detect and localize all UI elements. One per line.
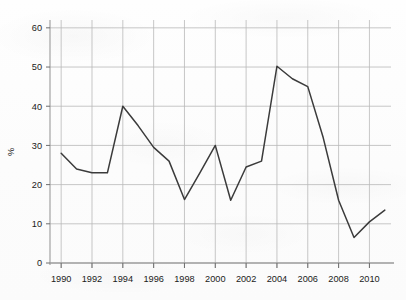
y-tick-label: 60 (32, 23, 42, 33)
y-tick-label: 20 (32, 180, 42, 190)
x-tick-label: 1996 (143, 274, 163, 284)
y-axis-title: % (6, 148, 16, 156)
x-tick-label: 2000 (205, 274, 225, 284)
x-tick-label: 1992 (82, 274, 102, 284)
x-tick-label: 1990 (51, 274, 71, 284)
x-tick-label: 2006 (298, 274, 318, 284)
y-tick-label: 40 (32, 102, 42, 112)
x-tick-label: 1998 (174, 274, 194, 284)
x-tick-label: 1994 (113, 274, 133, 284)
y-tick-label: 50 (32, 62, 42, 72)
y-tick-label: 30 (32, 141, 42, 151)
x-tick-label: 2010 (359, 274, 379, 284)
line-chart: 0102030405060199019921994199619982000200… (0, 0, 406, 300)
data-series-line (61, 66, 385, 237)
axis-ticks (46, 28, 369, 268)
y-tick-label: 10 (32, 219, 42, 229)
x-tick-label: 2008 (328, 274, 348, 284)
grid-lines (50, 20, 391, 268)
x-tick-label: 2002 (236, 274, 256, 284)
x-tick-label: 2004 (267, 274, 287, 284)
data-line (61, 66, 385, 237)
chart-page: 0102030405060199019921994199619982000200… (0, 0, 406, 300)
y-tick-label: 0 (37, 258, 42, 268)
axis-lines (50, 20, 394, 265)
